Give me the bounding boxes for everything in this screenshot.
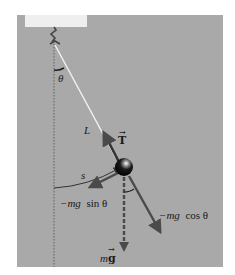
weight-g-wrap: →g xyxy=(108,252,116,265)
tangential-prefix: −mg xyxy=(60,197,81,209)
pendulum-diagram: θ L →T s −mg sin θ −mg cos θ m→g xyxy=(0,0,235,275)
length-label: L xyxy=(84,125,90,136)
ceiling-block xyxy=(25,15,87,27)
radial-suffix: cos θ xyxy=(185,209,208,221)
radial-prefix: −mg xyxy=(159,209,180,221)
weight-m: m xyxy=(100,252,108,264)
arc-length-label: s xyxy=(81,170,85,181)
weight-label: m→g xyxy=(100,253,116,264)
radial-force-label: −mg cos θ xyxy=(159,210,208,221)
tangential-force-label: −mg sin θ xyxy=(60,198,107,209)
pendulum-bob xyxy=(115,158,133,176)
tangential-suffix: sin θ xyxy=(86,197,107,209)
theta-label: θ xyxy=(58,73,63,84)
tension-label: →T xyxy=(118,135,126,146)
